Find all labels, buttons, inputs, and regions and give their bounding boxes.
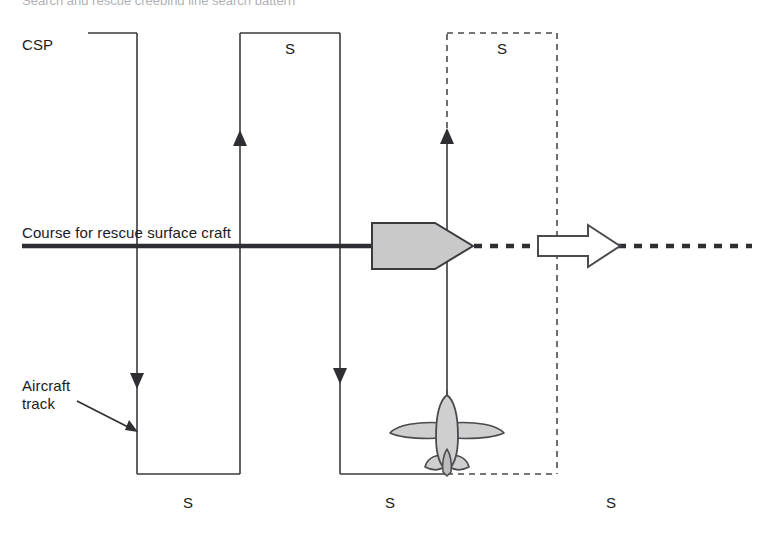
aircraft-symbol — [390, 390, 504, 476]
arrowhead-up-leg-2 — [233, 130, 247, 146]
label-s-bottom-1: S — [166, 494, 210, 512]
label-s-top-solid: S — [268, 40, 312, 58]
block-arrow-shape — [538, 225, 620, 267]
arrowhead-down-leg-1 — [130, 373, 144, 389]
arrowhead-down-leg-3 — [333, 368, 347, 384]
aircraft-track-callout-leader — [77, 401, 138, 432]
sar-search-pattern-diagram: Search and rescue creeping line search p… — [0, 0, 772, 541]
label-aircraft-track-line1: Aircraft — [22, 377, 70, 395]
label-s-bottom-2: S — [368, 494, 412, 512]
callout-leader-arrowhead — [125, 420, 138, 432]
ship-pentagon — [372, 223, 473, 269]
arrowhead-up-leg-4 — [440, 128, 454, 144]
label-course-for-rescue-surface-craft: Course for rescue surface craft — [22, 224, 231, 242]
label-s-top-dashed: S — [480, 40, 524, 58]
track-leg-2-solid — [240, 33, 340, 474]
rescue-surface-craft-symbol — [372, 223, 473, 269]
track-leg-1-solid — [88, 33, 240, 474]
projected-movement-arrow — [538, 225, 620, 267]
label-aircraft-track-line2: track — [22, 395, 55, 413]
diagram-canvas — [0, 0, 772, 541]
callout-leader-line — [77, 401, 130, 428]
label-csp: CSP — [22, 36, 53, 54]
label-s-bottom-3: S — [589, 494, 633, 512]
